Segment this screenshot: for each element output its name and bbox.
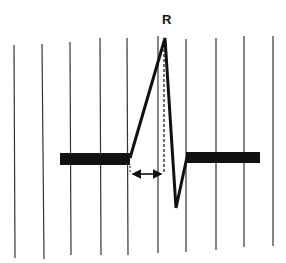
r-peak-label: R — [162, 12, 172, 27]
baseline-left — [60, 153, 130, 165]
baseline-right — [186, 152, 260, 163]
grid-line — [42, 44, 44, 259]
grid-line — [100, 38, 101, 255]
ecg-diagram: R — [0, 0, 286, 263]
grid-line — [14, 45, 15, 258]
grid-line — [127, 38, 128, 255]
grid-lines — [14, 36, 273, 259]
grid-line — [70, 42, 71, 255]
